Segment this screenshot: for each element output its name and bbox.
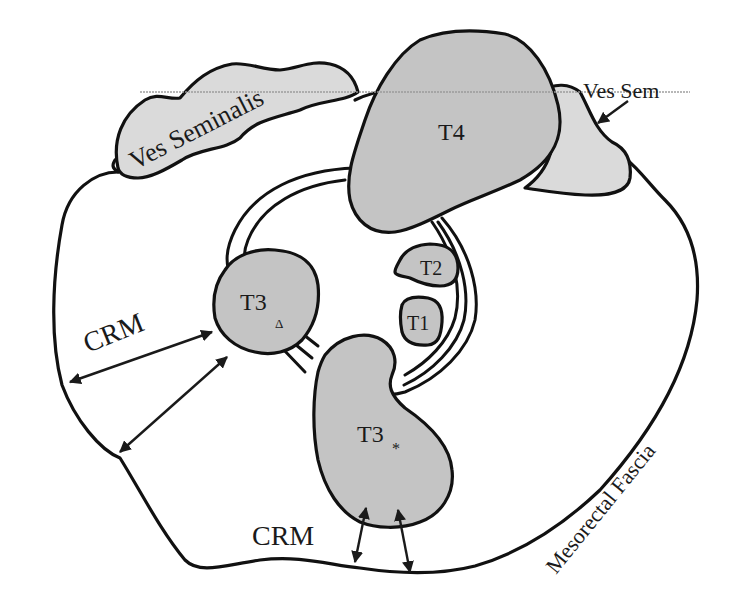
label-t3-star-sub: * bbox=[392, 440, 400, 457]
label-t3-triangle-sub: Δ bbox=[275, 316, 283, 331]
ves-sem-pointer-arrow bbox=[598, 101, 628, 123]
label-t3-star: T3 bbox=[357, 421, 384, 447]
label-crm-left: CRM bbox=[79, 306, 148, 358]
crm-arrow-left-lower bbox=[120, 357, 227, 452]
label-t3-triangle: T3 bbox=[240, 289, 267, 315]
mesorectal-diagram: Ves Seminalis Ves Sem T4 T2 T1 T3 Δ T3 *… bbox=[0, 0, 739, 614]
label-t2: T2 bbox=[420, 257, 442, 279]
label-t4: T4 bbox=[438, 119, 465, 145]
label-mesorectal-fascia: Mesorectal Fascia bbox=[540, 438, 660, 578]
label-ves-sem: Ves Sem bbox=[583, 78, 659, 103]
label-t1: T1 bbox=[407, 312, 429, 334]
label-crm-bottom: CRM bbox=[252, 520, 314, 551]
